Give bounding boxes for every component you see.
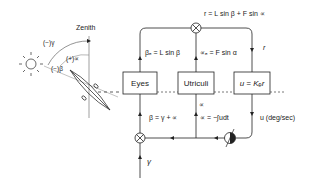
sun-icon: [19, 52, 43, 76]
arrow-up-icon: [138, 112, 142, 116]
fish-orientation-illustration: Zenith (−)γ (+)∝ (−)β: [19, 24, 120, 118]
alpha-integral-equation: ∝ = −∫udt: [200, 114, 229, 122]
eyes-block-label: Eyes: [131, 79, 149, 88]
arrow-up-icon: [138, 155, 142, 159]
fish-icon: [70, 70, 110, 110]
top-sum-junction: [191, 23, 201, 33]
alpha-label: ∝: [199, 101, 204, 108]
zenith-label: Zenith: [76, 24, 96, 31]
utriculi-block: Utriculi: [178, 72, 214, 94]
alpha-angle-label: (+)∝: [66, 55, 79, 63]
u-label: u (deg/sec): [260, 114, 295, 122]
eyes-block: Eyes: [123, 72, 157, 94]
gain-block-label: u = Kₑr: [240, 79, 265, 88]
arrow-down-icon: [250, 112, 254, 116]
u-output-line: [236, 94, 252, 138]
vestibular-control-diagram: Zenith (−)γ (+)∝ (−)β r = L sin β + F si…: [0, 0, 318, 185]
alpha-e-equation: ∝ₑ = F sin α: [200, 49, 237, 56]
gamma-label: γ: [147, 157, 152, 166]
beta-angle-label: (−)β: [51, 65, 63, 73]
bottom-sum-junction: [135, 133, 145, 143]
gain-block: u = Kₑr: [234, 72, 270, 94]
gamma-angle-label: (−)γ: [43, 39, 55, 47]
arrow-left-icon: [214, 136, 218, 140]
arrow-up-icon: [194, 56, 198, 60]
beta-e-equation: βₑ = L sin β: [145, 49, 180, 57]
arrow-up-icon: [138, 56, 142, 60]
integrator-icon: [225, 129, 236, 147]
r-equation: r = L sin β + F sin ∝: [204, 10, 265, 18]
arrow-left-icon: [170, 136, 174, 140]
beta-sum-equation: β = γ + ∝: [149, 114, 177, 122]
arrow-down-icon: [250, 48, 254, 52]
arrow-up-icon: [194, 112, 198, 116]
r-label: r: [263, 44, 266, 51]
utriculi-block-label: Utriculi: [184, 79, 209, 88]
